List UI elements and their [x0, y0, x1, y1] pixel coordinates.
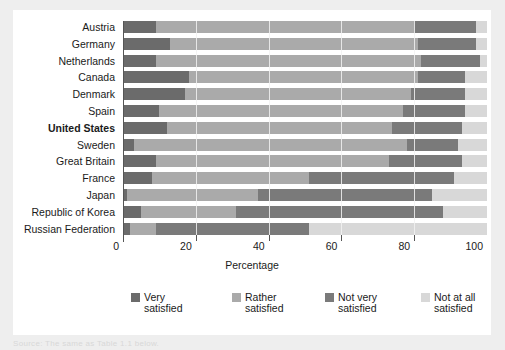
- category-label-sweden: Sweden: [77, 139, 115, 150]
- x-tick: [123, 235, 124, 241]
- bar-segment: [123, 88, 185, 100]
- stacked-bar: [123, 88, 487, 100]
- legend-label: Not at all satisfied: [434, 292, 475, 314]
- legend-item[interactable]: Very satisfied: [131, 292, 183, 314]
- gridline: [196, 21, 197, 235]
- category-label-austria: Austria: [82, 22, 115, 33]
- bar-segment: [465, 105, 487, 117]
- stacked-bar: [123, 223, 487, 235]
- bar-segment: [414, 21, 476, 33]
- x-axis-title: Percentage: [13, 259, 491, 271]
- bar-segment: [476, 21, 487, 33]
- x-tick-label: 80: [399, 240, 411, 252]
- bar-segment: [123, 21, 156, 33]
- chart-footnote: Source: The same as Table 1.1 below.: [13, 339, 159, 348]
- bar-segment: [403, 105, 465, 117]
- bar-segment: [156, 21, 414, 33]
- stacked-bar: [123, 206, 487, 218]
- stacked-bar: [123, 172, 487, 184]
- bar-segment: [123, 172, 152, 184]
- chart-row: Netherlands: [13, 55, 487, 67]
- bar-segment: [156, 223, 309, 235]
- bar-segment: [123, 206, 141, 218]
- bar-segment: [411, 88, 466, 100]
- bar-segment: [123, 122, 167, 134]
- bar-segment: [392, 122, 461, 134]
- bar-segment: [130, 223, 155, 235]
- category-label-netherlands: Netherlands: [58, 55, 115, 66]
- x-tick: [341, 235, 342, 241]
- chart-row: Japan: [13, 189, 487, 201]
- chart-plot-area: AustriaGermanyNetherlandsCanadaDenmarkSp…: [13, 10, 491, 335]
- bar-segment: [418, 71, 465, 83]
- x-tick-label: 60: [326, 240, 338, 252]
- legend-label: Very satisfied: [144, 292, 183, 314]
- legend-swatch-icon: [232, 293, 241, 302]
- legend-item[interactable]: Rather satisfied: [232, 292, 284, 314]
- chart-legend: Very satisfiedRather satisfiedNot very s…: [13, 292, 491, 326]
- gridline: [414, 21, 415, 235]
- bar-segment: [476, 38, 487, 50]
- x-tick: [269, 235, 270, 241]
- bar-segment: [465, 88, 487, 100]
- chart-row: Great Britain: [13, 155, 487, 167]
- legend-item[interactable]: Not at all satisfied: [421, 292, 475, 314]
- legend-label: Rather satisfied: [245, 292, 284, 314]
- category-label-germany: Germany: [72, 39, 115, 50]
- bar-segment: [462, 122, 487, 134]
- legend-swatch-icon: [421, 293, 430, 302]
- legend-label: Not very satisfied: [338, 292, 377, 314]
- bar-segment: [421, 55, 479, 67]
- x-tick-label: 20: [180, 240, 192, 252]
- category-label-canada: Canada: [78, 72, 115, 83]
- chart-row: United States: [13, 122, 487, 134]
- category-label-republic-of-korea: Republic of Korea: [32, 207, 115, 218]
- chart-row: Spain: [13, 105, 487, 117]
- category-label-japan: Japan: [86, 190, 115, 201]
- category-label-united-states: United States: [48, 123, 115, 134]
- stacked-bar: [123, 38, 487, 50]
- gridline: [341, 21, 342, 235]
- bar-segment: [123, 139, 134, 151]
- stacked-bar: [123, 122, 487, 134]
- x-tick: [196, 235, 197, 241]
- bar-segment: [309, 172, 455, 184]
- gridline: [269, 21, 270, 235]
- chart-row: Austria: [13, 21, 487, 33]
- bar-segment: [236, 206, 443, 218]
- chart-figure: AustriaGermanyNetherlandsCanadaDenmarkSp…: [13, 10, 491, 335]
- chart-row: Sweden: [13, 139, 487, 151]
- bar-segment: [152, 172, 309, 184]
- bar-segment: [123, 155, 156, 167]
- bar-segment: [462, 155, 487, 167]
- bar-segment: [123, 38, 170, 50]
- category-label-france: France: [82, 173, 115, 184]
- x-tick-label: 100: [465, 240, 483, 252]
- category-label-spain: Spain: [88, 106, 115, 117]
- legend-item[interactable]: Not very satisfied: [325, 292, 377, 314]
- bar-segment: [480, 55, 487, 67]
- stacked-bar: [123, 55, 487, 67]
- legend-swatch-icon: [325, 293, 334, 302]
- bar-segment: [389, 155, 462, 167]
- x-tick-label: 40: [253, 240, 265, 252]
- stacked-bar: [123, 189, 487, 201]
- stacked-bar: [123, 155, 487, 167]
- chart-row: France: [13, 172, 487, 184]
- x-tick: [414, 235, 415, 241]
- bar-segment: [123, 71, 189, 83]
- bar-segment: [134, 139, 407, 151]
- chart-row: Russian Federation: [13, 223, 487, 235]
- category-label-russian-federation: Russian Federation: [24, 223, 115, 234]
- category-label-denmark: Denmark: [72, 89, 115, 100]
- y-axis-line: [123, 21, 124, 242]
- bar-segment: [127, 189, 258, 201]
- bar-segment: [123, 223, 130, 235]
- chart-row: Canada: [13, 71, 487, 83]
- bar-segment: [432, 189, 487, 201]
- bar-segment: [465, 71, 487, 83]
- x-tick-label: 0: [113, 240, 119, 252]
- bar-segment: [258, 189, 433, 201]
- stacked-bar: [123, 139, 487, 151]
- bar-segment: [418, 38, 476, 50]
